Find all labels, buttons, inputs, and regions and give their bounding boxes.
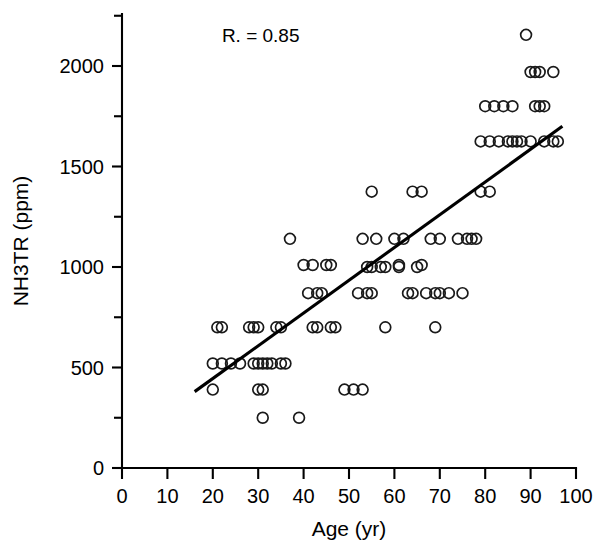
data-point: [430, 322, 441, 333]
data-point: [371, 233, 382, 244]
x-tick-label: 70: [429, 485, 451, 507]
scatter-plot-figure: 0500100015002000 0102030405060708090100 …: [0, 0, 605, 547]
x-tick-label-group: 0102030405060708090100: [116, 485, 592, 507]
data-point: [257, 412, 268, 423]
x-tick-label: 10: [156, 485, 178, 507]
y-tick-label: 2000: [60, 55, 105, 77]
correlation-annotation: R. = 0.85: [222, 25, 300, 46]
x-tick-label: 90: [519, 485, 541, 507]
x-tick-label: 100: [559, 485, 592, 507]
y-tick-group: [112, 16, 122, 468]
y-tick-label-group: 0500100015002000: [60, 55, 105, 479]
y-axis-title: NH3TR (ppm): [9, 176, 32, 307]
x-tick-label: 40: [292, 485, 314, 507]
data-point: [457, 288, 468, 299]
x-tick-label: 60: [383, 485, 405, 507]
data-point-group: [207, 29, 563, 423]
y-tick-label: 500: [71, 357, 104, 379]
y-tick-label: 0: [93, 457, 104, 479]
x-axis-title: Age (yr): [312, 517, 387, 540]
data-point: [294, 412, 305, 423]
data-point: [357, 233, 368, 244]
x-tick-label: 0: [116, 485, 127, 507]
x-tick-group: [122, 468, 576, 479]
data-point: [207, 384, 218, 395]
x-tick-label: 30: [247, 485, 269, 507]
x-tick-label: 20: [202, 485, 224, 507]
x-tick-label: 50: [338, 485, 360, 507]
data-point: [366, 186, 377, 197]
x-tick-label: 80: [474, 485, 496, 507]
data-point: [380, 322, 391, 333]
plot-canvas: 0500100015002000 0102030405060708090100 …: [0, 0, 605, 547]
data-point: [285, 233, 296, 244]
regression-line: [195, 126, 563, 391]
data-point: [548, 67, 559, 78]
data-point: [521, 29, 532, 40]
y-tick-label: 1000: [60, 256, 105, 278]
y-tick-label: 1500: [60, 156, 105, 178]
